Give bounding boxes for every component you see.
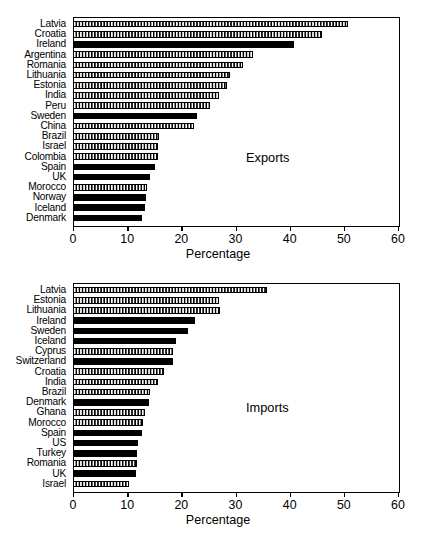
bar [73,481,129,488]
x-axis-tick-labels-exports: 0102030405060 [0,231,422,247]
x-axis-tick-label: 40 [283,497,297,513]
bar-row [73,458,398,468]
bar-row [73,356,398,366]
x-axis-tick-label: 10 [120,231,134,247]
bar-row [73,141,398,151]
bar-row [73,70,398,80]
bar-row [73,367,398,377]
bar [73,307,220,314]
bar [73,399,149,406]
bar [73,460,137,467]
bar [73,153,158,160]
bar-row [73,295,398,305]
x-axis-tick-label: 60 [391,497,405,513]
bar-row [73,121,398,131]
bar [73,31,322,38]
bar-row [73,101,398,111]
bar [73,133,159,140]
bar-row [73,192,398,202]
bar-row [73,60,398,70]
bar [73,450,137,457]
category-label: Switzerland [0,356,69,366]
category-label: Lithuania [0,305,69,315]
category-label: Israel [0,141,69,151]
x-axis-title-text-imports: Percentage [186,513,250,527]
bar [73,348,173,355]
x-axis-tick-label: 0 [70,497,77,513]
bar [73,215,142,222]
bar [73,338,176,345]
bars-imports [73,283,398,491]
x-axis-tick-label: 20 [174,231,188,247]
figure-exports-imports-percentage: LatviaCroatiaIrelandArgentinaRomaniaLith… [0,0,422,545]
bar [73,204,145,211]
bar-row [73,326,398,336]
x-axis-tick-label: 10 [120,497,134,513]
bar-row [73,90,398,100]
bar [73,62,243,69]
bar [73,419,143,426]
category-axis-labels-exports: LatviaCroatiaIrelandArgentinaRomaniaLith… [0,17,69,225]
x-axis-tick-label: 60 [391,231,405,247]
bar-row [73,336,398,346]
bar [73,184,147,191]
bar [73,194,146,201]
x-axis-tick-label: 30 [229,231,243,247]
bar [73,409,145,416]
x-axis-tick-label: 50 [337,497,351,513]
bar-row [73,407,398,417]
bar-row [73,203,398,213]
bar [73,82,227,89]
bar-row [73,479,398,489]
bar-row [73,387,398,397]
x-axis-tick-label: 0 [70,231,77,247]
x-axis-tick-label: 40 [283,231,297,247]
bar-row [73,428,398,438]
x-axis-tick-labels-imports: 0102030405060 [0,497,422,513]
bar-row [73,50,398,60]
bar [73,41,294,48]
bar [73,72,230,79]
bar-row [73,418,398,428]
category-label: India [0,90,69,100]
bar [73,51,253,58]
x-axis-tick-label: 50 [337,231,351,247]
x-axis-tick-label: 20 [174,497,188,513]
bar-row [73,305,398,315]
bar [73,389,150,396]
panel-annotation-exports: Exports [246,150,289,165]
x-axis-title-imports: Percentage [0,513,422,527]
bar [73,430,142,437]
bar [73,328,188,335]
bar-row [73,111,398,121]
bar-row [73,346,398,356]
bar-row [73,172,398,182]
bar-row [73,131,398,141]
bar [73,92,219,99]
bar [73,470,136,477]
bar [73,143,158,150]
bar-row [73,469,398,479]
bars-exports [73,17,398,225]
bar-row [73,285,398,295]
x-axis-tick-label: 30 [229,497,243,513]
bar-row [73,39,398,49]
bar-row [73,316,398,326]
bar-row [73,377,398,387]
bar-row [73,213,398,223]
bar [73,440,138,447]
bar [73,379,158,386]
category-label: Ghana [0,407,69,417]
bar [73,123,194,130]
bar [73,113,197,120]
bar [73,21,348,28]
bar [73,297,219,304]
bar [73,164,155,171]
bar-row [73,438,398,448]
bar [73,358,173,365]
bar-row [73,29,398,39]
bar [73,368,164,375]
bar-row [73,397,398,407]
x-axis-title-exports: Percentage [0,247,422,261]
category-label: Romania [0,458,69,468]
